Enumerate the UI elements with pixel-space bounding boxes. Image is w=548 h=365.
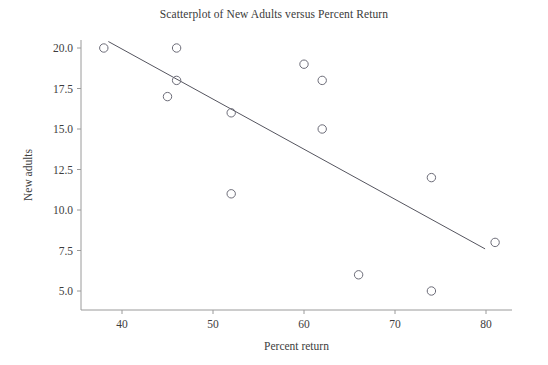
data-point-marker <box>427 287 435 295</box>
data-point-marker <box>300 60 308 68</box>
x-tick-label: 80 <box>480 318 492 330</box>
y-axis-title: New adults <box>22 148 34 201</box>
y-tick-label: 5.0 <box>59 285 74 297</box>
tick-layer: 5.07.510.012.515.017.520.04050607080 <box>53 42 492 330</box>
data-point-marker <box>227 109 235 117</box>
y-tick-label: 12.5 <box>53 164 73 176</box>
data-point-marker <box>163 92 171 100</box>
data-point-marker <box>427 173 435 181</box>
y-tick-label: 7.5 <box>59 245 74 257</box>
y-tick-label: 20.0 <box>53 42 73 54</box>
data-point-marker <box>318 125 326 133</box>
x-tick-label: 60 <box>298 318 310 330</box>
data-point-marker <box>354 271 362 279</box>
data-point-marker <box>227 190 235 198</box>
y-tick-label: 15.0 <box>53 123 73 135</box>
scatterplot-figure: Scatterplot of New Adults versus Percent… <box>0 0 548 365</box>
x-tick-label: 70 <box>389 318 401 330</box>
data-point-marker <box>172 44 180 52</box>
y-tick-label: 17.5 <box>53 83 73 95</box>
regression-line-segment <box>108 42 485 249</box>
axis-layer <box>81 40 512 310</box>
x-tick-label: 40 <box>116 318 128 330</box>
data-point-marker <box>491 238 499 246</box>
x-tick-label: 50 <box>207 318 219 330</box>
data-point-marker <box>318 76 326 84</box>
data-point-marker <box>100 44 108 52</box>
regression-line <box>108 42 485 249</box>
plot-canvas: 5.07.510.012.515.017.520.04050607080 Per… <box>0 0 548 365</box>
data-points-layer <box>100 44 500 295</box>
x-axis-title: Percent return <box>264 340 329 352</box>
y-tick-label: 10.0 <box>53 204 73 216</box>
